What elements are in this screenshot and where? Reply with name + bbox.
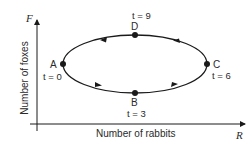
point-b-label: B <box>131 97 138 108</box>
y-axis-label: Number of foxes <box>19 41 30 114</box>
point-c-time: t = 6 <box>212 70 231 81</box>
y-axis-symbol: F <box>25 12 33 24</box>
phase-diagram: F R Number of rabbits Number of foxes A … <box>0 0 252 145</box>
x-axis-symbol: R <box>235 129 243 141</box>
direction-arrow-icon <box>171 82 178 87</box>
point-a-label: A <box>50 59 57 70</box>
point-c <box>204 61 210 67</box>
direction-arrow-icon <box>95 82 102 87</box>
cycle-orbit <box>63 35 207 93</box>
x-axis-label: Number of rabbits <box>96 128 175 139</box>
point-c-label: C <box>213 59 220 70</box>
point-a-time: t = 0 <box>43 71 62 82</box>
point-d-label: D <box>131 21 138 32</box>
point-d <box>132 32 138 38</box>
point-d-time: t = 9 <box>132 10 151 21</box>
point-a <box>60 61 66 67</box>
point-b <box>132 90 138 96</box>
point-b-time: t = 3 <box>127 108 146 119</box>
